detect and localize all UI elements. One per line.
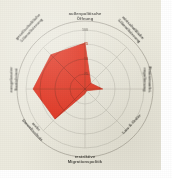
axis-label-restriktive-migrationspolitik: restriktive Migrationspolitik [61,155,109,164]
radar-tick-25: 25 [79,72,93,76]
axis-label-finanzmarktregulierung: Finanzmarkt- regulierung [142,57,151,103]
radar-series-polygon [33,43,103,119]
radar-tick-50: 50 [79,57,93,61]
scanned-paper-background: 100 75 50 25 außenpolitische Öffnung wir… [0,0,161,170]
axis-label-aussenpolitische-oeffnung: außenpolitische Öffnung [61,12,109,21]
radar-tick-75: 75 [79,42,93,46]
radar-center-point [84,88,86,90]
radar-tick-100: 100 [78,28,92,32]
axis-label-ausgebauter-sozialstaat: ausgebauter Sozialstaat [9,57,18,103]
figure-page: 100 75 50 25 außenpolitische Öffnung wir… [0,0,172,178]
